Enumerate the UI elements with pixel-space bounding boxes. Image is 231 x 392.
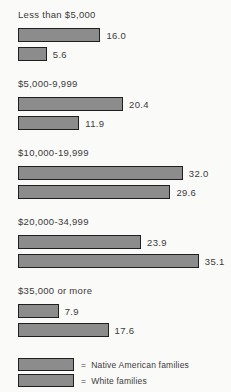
category-label: $20,000-34,999 [18, 217, 231, 227]
bar-row: 17.6 [18, 323, 231, 337]
category-label: $35,000 or more [18, 286, 231, 296]
equals-sign: = [81, 360, 86, 370]
bar-native-american [18, 304, 59, 318]
bar-white [18, 116, 79, 130]
income-group: Less than $5,00016.05.6 [18, 10, 231, 61]
legend-swatch-native-american [18, 358, 74, 371]
value-label: 7.9 [65, 306, 79, 317]
bar-row: 29.6 [18, 185, 231, 199]
value-label: 23.9 [147, 237, 167, 248]
legend-label-white: White families [91, 376, 147, 386]
legend-item-native-american: = Native American families [18, 358, 231, 371]
category-label: $10,000-19,999 [18, 148, 231, 158]
income-group: $35,000 or more7.917.6 [18, 286, 231, 337]
bar-groups: Less than $5,00016.05.6$5,000-9,99920.41… [18, 10, 231, 337]
income-group: $20,000-34,99923.935.1 [18, 217, 231, 268]
category-label: $5,000-9,999 [18, 79, 231, 89]
bar-native-american [18, 235, 141, 249]
legend: = Native American families = White famil… [18, 358, 231, 387]
equals-sign: = [81, 376, 86, 386]
value-label: 11.9 [85, 118, 104, 129]
bar-native-american [18, 28, 100, 42]
income-group: $10,000-19,99932.029.6 [18, 148, 231, 199]
bar-white [18, 185, 170, 199]
bar-row: 11.9 [18, 116, 231, 130]
legend-item-white: = White families [18, 374, 231, 387]
bar-row: 23.9 [18, 235, 231, 249]
bar-row: 16.0 [18, 28, 231, 42]
income-group: $5,000-9,99920.411.9 [18, 79, 231, 130]
value-label: 16.0 [106, 30, 126, 41]
bar-white [18, 323, 109, 337]
value-label: 5.6 [53, 49, 67, 60]
bar-row: 5.6 [18, 47, 231, 61]
value-label: 17.6 [115, 325, 135, 336]
value-label: 20.4 [129, 99, 149, 110]
bar-white [18, 47, 47, 61]
legend-label-native-american: Native American families [91, 360, 189, 370]
bar-row: 32.0 [18, 166, 231, 180]
value-label: 32.0 [189, 168, 209, 179]
bar-row: 35.1 [18, 254, 231, 268]
bar-white [18, 254, 199, 268]
income-distribution-chart: Less than $5,00016.05.6$5,000-9,99920.41… [0, 0, 231, 387]
bar-row: 7.9 [18, 304, 231, 318]
bar-row: 20.4 [18, 97, 231, 111]
bar-native-american [18, 166, 183, 180]
category-label: Less than $5,000 [18, 10, 231, 20]
bar-native-american [18, 97, 123, 111]
value-label: 35.1 [205, 256, 225, 267]
legend-swatch-white [18, 374, 74, 387]
value-label: 29.6 [176, 187, 196, 198]
